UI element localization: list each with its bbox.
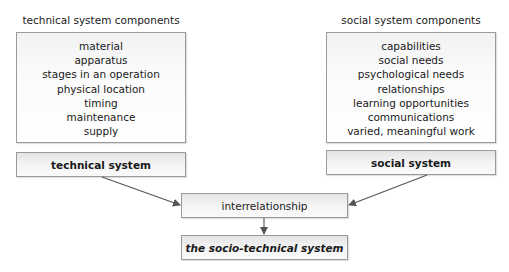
arrow-technical-to-interrelationship xyxy=(102,177,180,205)
arrow-social-to-interrelationship xyxy=(349,175,427,205)
connector-arrows xyxy=(0,0,509,272)
